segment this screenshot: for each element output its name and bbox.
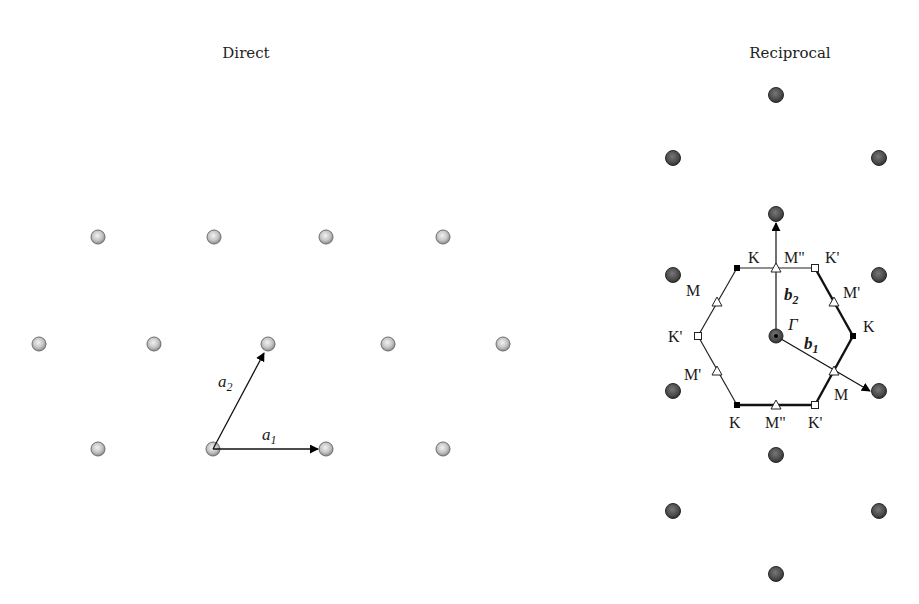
vector-a2-arrow [213,353,264,449]
direct-lattice: a1 a2 [32,230,510,456]
direct-lattice-atom [91,230,105,244]
k-point-marker [850,333,856,339]
reciprocal-lattice-point [872,504,887,519]
gamma-label: Γ [787,315,799,334]
reciprocal-lattice-point [666,504,681,519]
m-point-marker [712,366,722,375]
reciprocal-lattice-point [872,268,887,283]
label-top-k-prime: K' [825,249,840,266]
label-right-k: K [863,318,875,335]
direct-lattice-atom [147,337,161,351]
vector-b1-arrow [776,336,870,391]
lattice-diagram: Direct Reciprocal a1 a2 b2 b1 [0,0,919,604]
k-prime-point-marker [812,402,819,409]
vector-a2-label: a2 [218,372,233,394]
label-top-m-double-prime: M" [784,249,805,266]
label-top-k: K [748,249,760,266]
vector-a1-label: a1 [262,425,277,447]
direct-lattice-atom [261,337,275,351]
k-point-marker [734,402,740,408]
gamma-center-dot [774,334,778,338]
reciprocal-lattice-point [872,151,887,166]
m-point-marker [712,297,722,306]
vector-b2-label: b2 [784,285,799,307]
label-bottom-m-double-prime: M" [765,414,786,431]
direct-atoms [32,230,510,456]
direct-lattice-atom [319,442,333,456]
label-upper-left-m: M [686,282,700,299]
m-point-marker [829,297,839,306]
label-lower-left-m-prime: M' [684,366,701,383]
direct-lattice-atom [436,442,450,456]
reciprocal-lattice-point [769,567,784,582]
reciprocal-lattice-point [769,207,784,222]
direct-lattice-atom [381,337,395,351]
reciprocal-lattice-point [769,88,784,103]
direct-lattice-atom [436,230,450,244]
direct-title: Direct [222,44,269,62]
reciprocal-lattice-point [872,384,887,399]
reciprocal-title: Reciprocal [749,44,831,62]
direct-lattice-atom [207,230,221,244]
reciprocal-lattice-point [666,268,681,283]
reciprocal-lattice-point [666,151,681,166]
direct-lattice-atom [32,337,46,351]
reciprocal-lattice-point [666,384,681,399]
label-left-k-prime: K' [668,328,683,345]
vector-b1-label: b1 [804,334,819,356]
k-prime-point-marker [695,333,702,340]
label-upper-right-m-prime: M' [843,284,860,301]
reciprocal-lattice-point [769,448,784,463]
k-point-marker [734,265,740,271]
direct-lattice-atom [496,337,510,351]
label-bottom-k-prime: K' [808,414,823,431]
k-prime-point-marker [812,265,819,272]
direct-lattice-atom [91,442,105,456]
label-lower-right-m: M [834,386,848,403]
label-bottom-k: K [729,414,741,431]
reciprocal-lattice: b2 b1 Γ K M" K' M M' K' K M' M K M" [666,88,887,582]
direct-lattice-atom [319,230,333,244]
